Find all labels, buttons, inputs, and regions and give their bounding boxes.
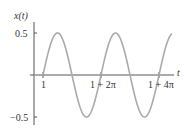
x-tick-label-1p2pi: 1 + 2π (90, 79, 116, 90)
y-tick-label-0.5: 0.5 (15, 28, 28, 39)
x-axis-label: t (177, 67, 180, 78)
chart: x(t) t 0.5 −0.5 1 1 + 2π 1 + 4π (0, 0, 188, 135)
y-tick-label-neg0.5: −0.5 (10, 112, 28, 123)
x-tick-label-1p4pi: 1 + 4π (148, 79, 174, 90)
y-axis-label: x(t) (13, 10, 29, 22)
x-tick-label-1: 1 (41, 79, 46, 90)
